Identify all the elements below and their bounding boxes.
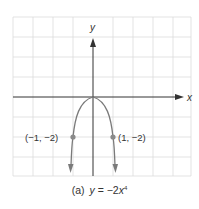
label-point-right: (1, −2) (118, 132, 146, 143)
y-axis: y (89, 22, 96, 176)
caption-label: (a) (72, 184, 85, 196)
x-axis-arrow-icon (175, 94, 184, 100)
x-axis: x (13, 92, 193, 103)
point-neg1-neg2 (70, 134, 75, 139)
caption-exponent: 4 (124, 185, 127, 191)
graph-plot: x y (−1, −2) (1, −2) (0, 0, 199, 209)
point-1-neg2 (110, 134, 115, 139)
caption-equation: y = −2x4 (90, 184, 128, 196)
y-axis-label: y (89, 22, 96, 33)
y-axis-arrow-icon (90, 38, 96, 47)
figure-caption: (a)y = −2x4 (0, 184, 199, 196)
x-axis-label: x (186, 92, 193, 103)
label-point-left: (−1, −2) (25, 132, 58, 143)
caption-eq-mid: = −2 (95, 184, 119, 196)
